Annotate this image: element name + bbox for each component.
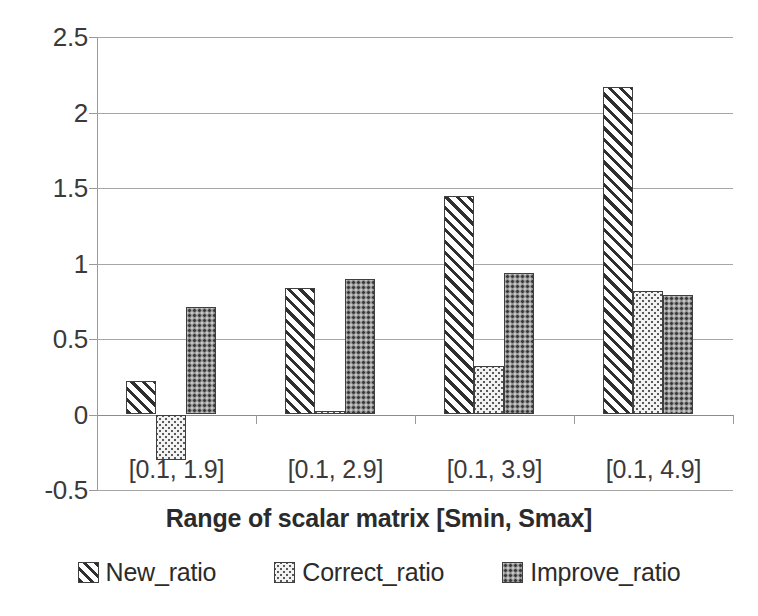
bar-group [415,37,574,490]
y-tick-mark [89,490,97,491]
y-tick-mark [89,339,97,340]
bar-new-ratio [285,288,315,415]
y-tick-label: 1 [74,248,88,279]
x-tick-mark [97,415,98,424]
legend-item-correct-ratio[interactable]: Correct_ratio [274,558,444,587]
bar-new-ratio [603,87,633,415]
y-tick-label: 2 [74,97,88,128]
legend-item-improve-ratio[interactable]: Improve_ratio [502,558,680,587]
x-tick-label: [0.1, 3.9] [447,455,542,484]
y-tick-mark [89,188,97,189]
legend-swatch-icon [502,562,523,583]
chart-legend: New_ratioCorrect_ratioImprove_ratio [0,558,758,587]
y-tick-label: 0.5 [53,324,88,355]
y-tick-label: 2.5 [53,22,88,53]
x-axis-title: Range of scalar matrix [Smin, Smax] [0,504,758,533]
y-tick-mark [89,264,97,265]
bar-group [574,37,733,490]
legend-swatch-icon [274,562,295,583]
bar-correct-ratio [474,366,504,414]
bar-new-ratio [126,381,156,414]
y-tick-mark [89,113,97,114]
x-tick-mark [733,415,734,424]
bar-new-ratio [444,196,474,415]
y-tick-label: 0 [74,399,88,430]
bar-group [97,37,256,490]
bar-group [256,37,415,490]
x-tick-label: [0.1, 2.9] [288,455,383,484]
y-tick-label: -0.5 [44,475,88,506]
bar-correct-ratio [633,291,663,415]
bar-improve-ratio [663,295,693,414]
bar-improve-ratio [186,307,216,414]
bar-chart: 2.521.510.50-0.5 [0.1, 1.9][0.1, 2.9][0.… [0,0,758,616]
bar-improve-ratio [504,273,534,415]
x-tick-label: [0.1, 1.9] [129,455,224,484]
y-tick-mark [89,415,97,416]
y-tick-label: 1.5 [53,173,88,204]
legend-swatch-icon [78,562,99,583]
plot-area [97,37,733,490]
bar-correct-ratio [315,411,345,414]
x-axis-tick-labels: [0.1, 1.9][0.1, 2.9][0.1, 3.9][0.1, 4.9] [97,455,733,491]
bar-correct-ratio [156,415,186,460]
legend-label: Correct_ratio [302,558,444,587]
y-tick-mark [89,37,97,38]
x-tick-label: [0.1, 4.9] [606,455,701,484]
bar-improve-ratio [345,279,375,415]
legend-label: New_ratio [106,558,217,587]
legend-item-new-ratio[interactable]: New_ratio [78,558,217,587]
legend-label: Improve_ratio [530,558,680,587]
